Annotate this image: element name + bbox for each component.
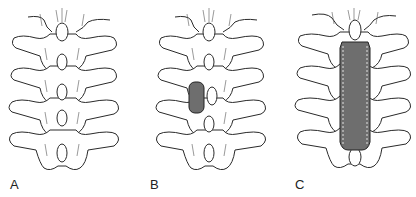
spine-drawing-b (147, 0, 286, 197)
spine-drawing-c (292, 0, 416, 197)
panel-label-a: A (10, 178, 19, 191)
panel-label-c: C (295, 178, 304, 191)
spine-drawing-a (0, 0, 139, 197)
panel-c: C (292, 0, 416, 197)
panel-b: B (147, 0, 286, 197)
panel-a: A (0, 0, 139, 197)
graft-strip-c (340, 42, 370, 150)
panel-label-b: B (150, 178, 159, 191)
graft-block-b (189, 82, 204, 113)
spine-figure: A B (0, 0, 416, 197)
